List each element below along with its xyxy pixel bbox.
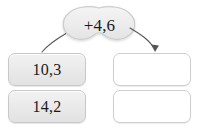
input-value-box: 10,3 <box>8 53 86 86</box>
output-column <box>113 53 191 123</box>
output-answer-box[interactable] <box>113 90 191 123</box>
arrowhead-icon <box>151 45 159 52</box>
operation-blob-shape <box>63 7 134 40</box>
input-value-box: 14,2 <box>8 90 86 123</box>
function-machine-worksheet: +4,6 10,3 14,2 <box>0 0 198 129</box>
output-answer-box[interactable] <box>113 53 191 86</box>
input-column: 10,3 14,2 <box>8 53 86 123</box>
arrow-to-output <box>130 28 155 50</box>
